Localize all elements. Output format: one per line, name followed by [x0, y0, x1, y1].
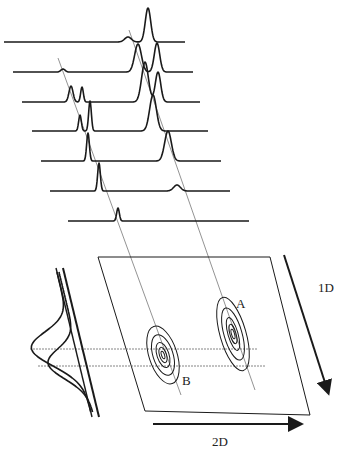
- chromatogram-trace-2: [13, 43, 193, 72]
- chromatogram-trace-7: [68, 208, 249, 221]
- contour-ring: [160, 351, 165, 360]
- chromatogram-trace-5: [41, 131, 221, 161]
- side-projection-profiles: [31, 268, 99, 417]
- contour-ring: [227, 324, 238, 345]
- compound-b-guide: [58, 58, 181, 395]
- contour-plane: [98, 257, 310, 415]
- two-dimensional-separation-diagram: A B 1D 2D: [0, 0, 359, 459]
- first-dimension-chromatograms: [4, 8, 249, 221]
- peak-a-label: A: [236, 296, 246, 311]
- plane-outline: [98, 257, 310, 415]
- second-dimension-label: 2D: [212, 434, 228, 449]
- projection-axis-line: [63, 268, 99, 417]
- contour-ring: [140, 322, 185, 388]
- contour-ring: [210, 294, 256, 374]
- peak-b-label: B: [182, 373, 191, 388]
- chromatogram-trace-4: [32, 95, 208, 131]
- contour-ring: [147, 332, 179, 378]
- chromatogram-trace-1: [4, 8, 185, 42]
- first-dimension-label: 1D: [318, 280, 334, 295]
- contour-peak-b: [140, 322, 185, 388]
- first-dimension-arrow: [284, 255, 328, 392]
- contour-ring: [217, 306, 249, 363]
- chromatogram-trace-3: [22, 62, 200, 102]
- chromatogram-trace-6: [50, 163, 230, 191]
- contour-peak-a: [210, 294, 256, 374]
- contour-ring: [224, 316, 243, 351]
- dimension-arrows: [153, 255, 328, 424]
